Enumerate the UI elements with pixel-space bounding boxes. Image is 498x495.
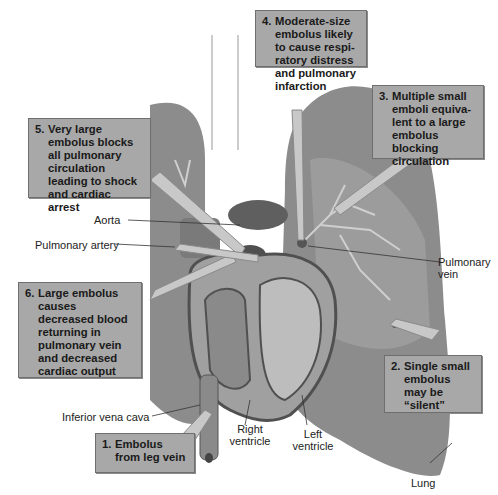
- right-ventricle: [205, 289, 250, 389]
- pulmonary-embolism-diagram: 4. Moderate-size embolus likely to cause…: [0, 0, 498, 495]
- label-left-ventricle: Left ventricle: [288, 428, 338, 452]
- callout-number: 1.: [102, 438, 111, 451]
- callout-text: Large embolus causes decreased blood ret…: [25, 287, 135, 378]
- label-pulmonary-artery: Pulmonary artery: [35, 239, 119, 251]
- label-inferior-vena-cava: Inferior vena cava: [62, 411, 149, 423]
- callout-number: 4.: [262, 15, 271, 28]
- label-lung: Lung: [411, 477, 435, 489]
- label-right-ventricle: Right ventricle: [225, 423, 275, 447]
- callout-3: 3. Multiple small emboli equiva-lent to …: [372, 85, 484, 159]
- callout-5: 5. Very large embolus blocks all pulmona…: [28, 118, 151, 198]
- callout-number: 5.: [35, 123, 44, 136]
- callout-text: Very large embolus blocks all pulmonary …: [35, 123, 144, 214]
- callout-text: Embolus from leg vein: [102, 438, 188, 464]
- callout-2: 2. Single small embolus may be “silent”: [384, 355, 482, 413]
- callout-number: 2.: [391, 360, 400, 373]
- callout-number: 3.: [379, 90, 388, 103]
- aortic-arch: [228, 200, 288, 230]
- callout-4: 4. Moderate-size embolus likely to cause…: [255, 10, 367, 67]
- callout-text: Multiple small emboli equiva-lent to a l…: [379, 90, 477, 168]
- callout-1: 1. Embolus from leg vein: [95, 433, 195, 473]
- label-pulmonary-vein: Pulmonary vein: [438, 256, 493, 280]
- callout-text: Moderate-size embolus likely to cause re…: [262, 15, 360, 93]
- callout-6: 6. Large embolus causes decreased blood …: [18, 282, 142, 378]
- label-aorta: Aorta: [94, 214, 120, 226]
- callout-number: 6.: [25, 287, 34, 300]
- callout-text: Single small embolus may be “silent”: [391, 360, 475, 412]
